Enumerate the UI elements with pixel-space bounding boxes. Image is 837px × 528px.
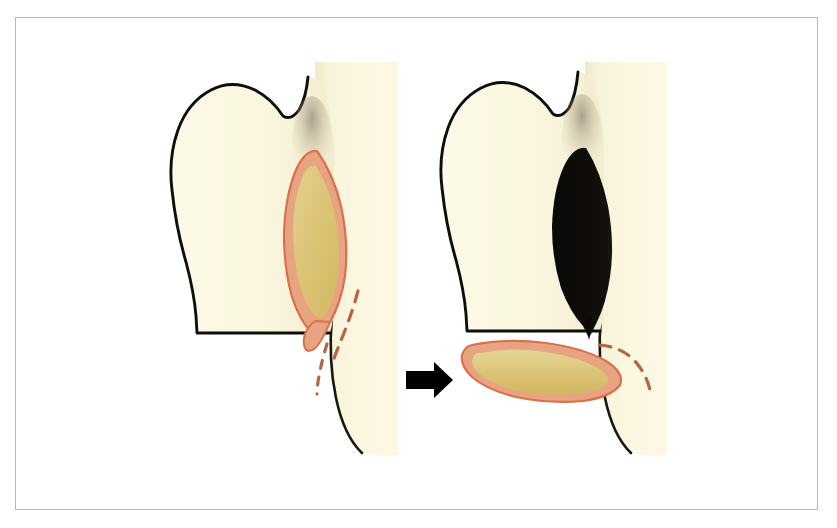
incision-dash-lower-left bbox=[317, 344, 327, 394]
panel-before bbox=[171, 62, 398, 456]
panel-after bbox=[441, 62, 667, 456]
arrow-right-icon bbox=[406, 362, 453, 398]
surgical-flap-diagram bbox=[0, 0, 837, 528]
figure-page: Flap harvest and rotation before after → bbox=[0, 0, 837, 528]
transition-arrow bbox=[406, 362, 453, 398]
